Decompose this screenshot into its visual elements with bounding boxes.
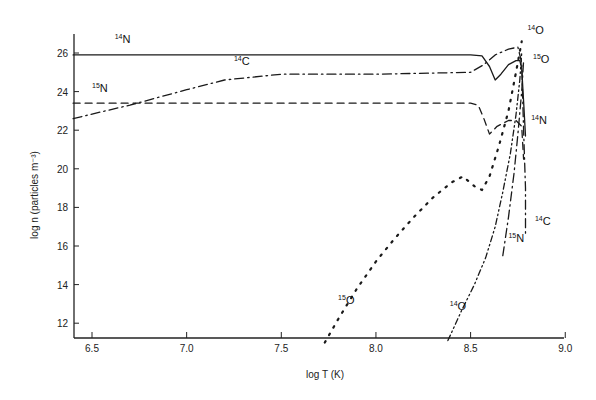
curve-15n-upper- [73, 103, 523, 159]
y-tick-label: 12 [57, 318, 69, 329]
curve-label: 15O [338, 294, 355, 306]
y-tick-label: 24 [57, 87, 69, 98]
curve-labels: 14N14C15N14O15O14N14C15N15O14O [92, 24, 551, 312]
x-tick-label: 7.5 [274, 343, 288, 354]
y-tick-label: 22 [57, 125, 69, 136]
y-axis-title: log n (particles m⁻³) [29, 151, 40, 239]
y-tick-label: 14 [57, 280, 69, 291]
x-tick-label: 9.0 [558, 343, 572, 354]
axes: 12141618202224266.57.07.58.08.59.0 [57, 34, 573, 354]
y-tick-label: 20 [57, 164, 69, 175]
curves [73, 41, 525, 342]
chart: 12141618202224266.57.07.58.08.59.0 14N14… [0, 0, 596, 400]
x-tick-label: 6.5 [85, 343, 99, 354]
y-tick-label: 16 [57, 241, 69, 252]
curve-label: 14C [234, 55, 250, 67]
curve-15n-lower- [503, 61, 524, 256]
curve-label: 14N [115, 33, 131, 45]
x-tick-label: 8.5 [464, 343, 478, 354]
x-tick-label: 8.0 [369, 343, 383, 354]
curve-label: 14C [535, 215, 551, 227]
curve-label: 14O [450, 300, 467, 312]
curve-label: 15O [533, 53, 550, 65]
x-tick-label: 7.0 [180, 343, 194, 354]
curve-label: 14O [527, 24, 544, 36]
x-axis-title: log T (K) [306, 369, 344, 380]
curve-label: 14N [531, 114, 547, 126]
curve-14c [73, 47, 525, 236]
curve-14n [73, 55, 525, 136]
curve-label: 15N [92, 82, 108, 94]
y-tick-label: 18 [57, 202, 69, 213]
curve-label: 15N [508, 232, 524, 244]
y-tick-label: 26 [57, 48, 69, 59]
